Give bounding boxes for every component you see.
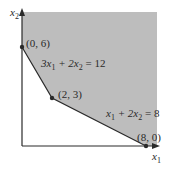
vertex-2-3 [50,96,54,100]
vertex-label-0-6: (0, 6) [26,37,50,50]
vertex-8-0 [144,144,148,148]
x-axis-label: x1 [151,150,161,165]
vertex-label-2-3: (2, 3) [58,88,82,101]
feasible-region [22,12,157,146]
vertex-0-6 [20,45,24,49]
vertex-label-8-0: (8, 0) [137,131,161,144]
feasible-region-diagram: x2 x1 (0, 6) (2, 3) (8, 0) 3x1 + 2x2 = 1… [0,0,185,169]
y-axis-label: x2 [9,6,19,21]
